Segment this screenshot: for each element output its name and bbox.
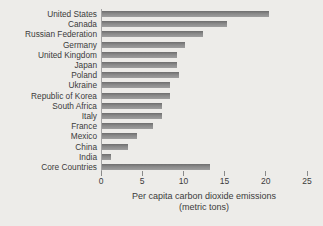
category-label-republic-of-korea: Republic of Korea	[0, 91, 97, 101]
chart-row-italy: Italy	[0, 111, 323, 121]
category-label-poland: Poland	[0, 70, 97, 80]
chart-row-india: India	[0, 152, 323, 162]
x-tick-label-0: 0	[99, 176, 104, 186]
bar-france	[102, 123, 153, 129]
bar-germany	[102, 42, 185, 48]
bar-mexico	[102, 133, 137, 139]
category-label-france: France	[0, 121, 97, 131]
bar-united-states	[102, 11, 269, 17]
bar-india	[102, 154, 111, 160]
chart-row-china: China	[0, 141, 323, 151]
bar-canada	[102, 21, 227, 27]
x-axis-title: Per capita carbon dioxide emissions (met…	[101, 191, 307, 212]
bar-japan	[102, 62, 177, 68]
category-label-mexico: Mexico	[0, 131, 97, 141]
category-label-italy: Italy	[0, 111, 97, 121]
x-axis-title-line1: Per capita carbon dioxide emissions	[101, 191, 307, 202]
bar-poland	[102, 72, 179, 78]
chart-row-united-states: United States	[0, 9, 323, 19]
chart-row-united-kingdom: United Kingdom	[0, 50, 323, 60]
category-label-south-africa: South Africa	[0, 101, 97, 111]
chart-row-mexico: Mexico	[0, 131, 323, 141]
x-tick-label-20: 20	[261, 176, 270, 186]
category-label-united-states: United States	[0, 9, 97, 19]
x-axis-title-line2: (metric tons)	[101, 202, 307, 213]
category-label-united-kingdom: United Kingdom	[0, 50, 97, 60]
category-label-ukraine: Ukraine	[0, 80, 97, 90]
chart-row-core-countries: Core Countries	[0, 162, 323, 172]
chart-row-poland: Poland	[0, 70, 323, 80]
chart-row-canada: Canada	[0, 19, 323, 29]
category-label-india: India	[0, 152, 97, 162]
bar-russian-federation	[102, 31, 203, 37]
bar-ukraine	[102, 82, 170, 88]
x-tick-label-15: 15	[220, 176, 229, 186]
bar-china	[102, 144, 128, 150]
chart-row-france: France	[0, 121, 323, 131]
chart-row-south-africa: South Africa	[0, 101, 323, 111]
bar-united-kingdom	[102, 52, 177, 58]
category-label-germany: Germany	[0, 40, 97, 50]
bar-core-countries	[102, 164, 210, 170]
bar-republic-of-korea	[102, 93, 170, 99]
category-label-russian-federation: Russian Federation	[0, 29, 97, 39]
chart-row-republic-of-korea: Republic of Korea	[0, 91, 323, 101]
x-tick-label-10: 10	[179, 176, 188, 186]
x-tick-label-5: 5	[140, 176, 145, 186]
category-label-china: China	[0, 142, 97, 152]
chart-row-germany: Germany	[0, 40, 323, 50]
chart-rows: United StatesCanadaRussian FederationGer…	[0, 9, 323, 172]
y-axis-line	[101, 9, 102, 175]
bar-italy	[102, 113, 162, 119]
category-label-core-countries: Core Countries	[0, 162, 97, 172]
category-label-japan: Japan	[0, 60, 97, 70]
category-label-canada: Canada	[0, 19, 97, 29]
chart-row-russian-federation: Russian Federation	[0, 29, 323, 39]
chart-row-japan: Japan	[0, 60, 323, 70]
chart-row-ukraine: Ukraine	[0, 80, 323, 90]
co2-emissions-bar-chart: United StatesCanadaRussian FederationGer…	[0, 0, 323, 226]
bar-south-africa	[102, 103, 162, 109]
x-tick-label-25: 25	[302, 176, 311, 186]
